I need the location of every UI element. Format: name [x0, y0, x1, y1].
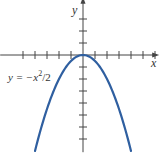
x-axis-label: x [150, 56, 157, 70]
y-axis-arrow-icon [81, 0, 86, 4]
y-axis-label: y [71, 3, 78, 17]
parabola-chart: x y y = −x2/2 [0, 0, 165, 163]
chart-canvas: x y y = −x2/2 [0, 0, 165, 163]
equation-label: y = −x2/2 [7, 69, 51, 83]
